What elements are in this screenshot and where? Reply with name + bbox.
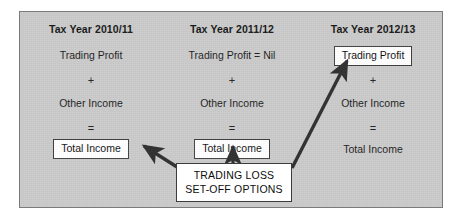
other-income-2012-13: Other Income (303, 97, 443, 109)
column-header-2011-12: Tax Year 2011/12 (162, 23, 302, 35)
equals-sign-2011-12: = (162, 122, 302, 134)
equals-sign-2012-13: = (303, 122, 443, 134)
plus-sign-2011-12: + (162, 74, 302, 86)
column-header-2012-13: Tax Year 2012/13 (303, 23, 443, 35)
other-income-2011-12: Other Income (162, 97, 302, 109)
total-income-box-2010-11: Total Income (53, 139, 129, 159)
trading-profit-box-wrap-2012-13: Trading Profit (303, 45, 443, 66)
callout-line-2: SET-OFF OPTIONS (179, 182, 289, 196)
trading-loss-setoff-options-box: TRADING LOSS SET-OFF OPTIONS (176, 163, 292, 202)
total-income-box-wrap-2011-12: Total Income (162, 138, 302, 159)
trading-profit-2011-12: Trading Profit = Nil (162, 49, 302, 61)
diagram-canvas: Tax Year 2010/11 Trading Profit + Other … (0, 0, 456, 221)
other-income-2010-11: Other Income (21, 97, 161, 109)
total-income-2012-13: Total Income (303, 143, 443, 155)
callout-line-1: TRADING LOSS (179, 168, 289, 182)
diagram-panel: Tax Year 2010/11 Trading Profit + Other … (19, 11, 443, 208)
total-income-box-wrap-2010-11: Total Income (21, 138, 161, 159)
total-income-box-2011-12: Total Income (194, 139, 270, 159)
column-header-2010-11: Tax Year 2010/11 (21, 23, 161, 35)
plus-sign-2010-11: + (21, 74, 161, 86)
trading-profit-2010-11: Trading Profit (21, 49, 161, 61)
plus-sign-2012-13: + (303, 74, 443, 86)
trading-profit-box-2012-13: Trading Profit (334, 46, 413, 66)
equals-sign-2010-11: = (21, 122, 161, 134)
